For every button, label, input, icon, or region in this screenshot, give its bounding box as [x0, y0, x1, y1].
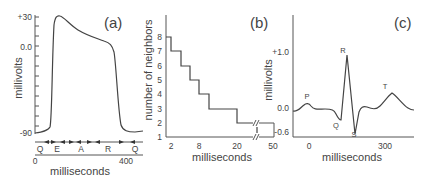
panel-b-xtick-8: 8 — [197, 141, 202, 151]
panel-b-axis-break — [253, 119, 274, 141]
panel-a-ytick-zero: 0.0 — [20, 42, 32, 52]
panel-b-xlabel: milliseconds — [192, 151, 252, 163]
panel-b-xtick-50: 50 — [268, 141, 278, 151]
panel-c-xtick-0: 0 — [307, 141, 312, 151]
panel-c-ytick-bottom: -0.6 — [274, 127, 289, 137]
panel-b-ytick-labels: 1 2 3 4 5 6 7 8 — [157, 32, 162, 142]
svg-text:7: 7 — [157, 46, 162, 56]
panel-a-xtick-0: 0 — [33, 156, 38, 166]
panel-c-ytick-top: +1.0 — [272, 47, 289, 57]
panel-b-step-curve — [166, 37, 257, 137]
panel-c-xtick-300: 300 — [378, 141, 392, 151]
panel-b: (b) 1 2 3 4 5 6 7 8 number of neighbors — [142, 14, 278, 163]
panel-a-xlabel: milliseconds — [50, 165, 110, 177]
panel-a-phase-a: A — [78, 144, 84, 154]
svg-text:3: 3 — [157, 104, 162, 114]
svg-text:5: 5 — [157, 75, 162, 85]
panel-c-ylabel: millivolts — [262, 59, 274, 101]
panel-b-ylabel: number of neighbors — [142, 19, 154, 120]
panel-b-xtick-2: 2 — [169, 141, 174, 151]
panel-a-ytick-top: +30 — [18, 12, 33, 22]
panel-c-xlabel: milliseconds — [322, 151, 382, 163]
svg-text:4: 4 — [157, 89, 162, 99]
panel-a-phase-q2: Q — [132, 144, 139, 154]
svg-text:8: 8 — [157, 32, 162, 42]
panel-a-curve — [35, 16, 143, 133]
panel-a-phase-r: R — [105, 144, 111, 154]
panel-c-wave-r: R — [340, 46, 346, 55]
panel-a-y-ticks — [35, 17, 39, 126]
panel-b-label: (b) — [250, 14, 268, 31]
svg-text:6: 6 — [157, 61, 162, 71]
panel-c-wave-q: Q — [333, 121, 339, 130]
panel-a-label: (a) — [104, 14, 122, 31]
panel-c-wave-p: P — [304, 92, 309, 101]
panel-c-wave-t: T — [383, 82, 388, 91]
panel-b-xtick-20: 20 — [232, 141, 242, 151]
panel-a-ytick-bottom: -90 — [20, 128, 33, 138]
svg-text:2: 2 — [157, 118, 162, 128]
svg-text:1: 1 — [157, 132, 162, 142]
figure: (a) +30 0.0 -90 millivolts — [0, 0, 424, 179]
panel-a-phase-q1: Q — [37, 144, 44, 154]
panel-a-ylabel: millivolts — [12, 57, 24, 99]
panel-c-ecg-curve — [293, 55, 414, 134]
panel-c-wave-s: S — [351, 130, 356, 139]
panel-a-xtick-400: 400 — [119, 156, 133, 166]
panel-c-ytick-zero: 0.0 — [277, 103, 289, 113]
panel-a: (a) +30 0.0 -90 millivolts — [12, 12, 143, 177]
panel-c-label: (c) — [394, 14, 412, 31]
panel-c: (c) +1.0 0.0 -0.6 millivolts P Q R S T 0… — [262, 14, 414, 163]
panel-a-phase-e: E — [54, 144, 60, 154]
